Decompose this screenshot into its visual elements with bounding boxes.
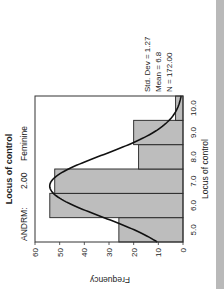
x-tick-label: 8.0: [189, 151, 198, 163]
histogram-svg: Locus of control ANDRM: 2.00 Feminine St…: [0, 0, 224, 289]
y-axis-label: Frequency: [89, 275, 130, 285]
page-edge-strip: [216, 0, 224, 289]
stat-n: N = 172.00: [165, 52, 174, 92]
y-axis-ticks: 0102030405060: [31, 242, 188, 257]
y-tick-label: 40: [80, 247, 89, 256]
histogram-rotated: Locus of control ANDRM: 2.00 Feminine St…: [0, 0, 224, 289]
x-tick-label: 7.0: [189, 175, 198, 187]
histogram-bar: [134, 120, 183, 144]
x-tick-label: 5.0: [189, 224, 198, 236]
x-axis-label: Locus of control: [200, 139, 210, 199]
stat-std-dev: Std. Dev = 1.27: [143, 36, 152, 92]
stat-mean: Mean = 6.8: [154, 51, 163, 92]
x-tick-label: 9.0: [189, 126, 198, 138]
x-axis-ticks: 5.06.07.08.09.010.0: [189, 100, 198, 236]
y-tick-label: 0: [179, 247, 188, 252]
x-tick-label: 10.0: [189, 100, 198, 116]
subtitle-group: Feminine: [19, 126, 29, 161]
chart-page: Locus of control ANDRM: 2.00 Feminine St…: [0, 0, 224, 289]
y-tick-label: 60: [31, 247, 40, 256]
y-tick-label: 50: [56, 247, 65, 256]
histogram-bar: [139, 145, 183, 169]
x-tick-label: 6.0: [189, 199, 198, 211]
subtitle-label: ANDRM:: [19, 207, 29, 241]
histogram-bar: [50, 193, 183, 217]
histogram-bar: [55, 169, 183, 193]
y-tick-label: 20: [130, 247, 139, 256]
y-tick-label: 30: [105, 247, 114, 256]
chart-title: Locus of control: [4, 134, 14, 205]
y-tick-label: 10: [154, 247, 163, 256]
subtitle-value: 2.00: [19, 172, 29, 189]
